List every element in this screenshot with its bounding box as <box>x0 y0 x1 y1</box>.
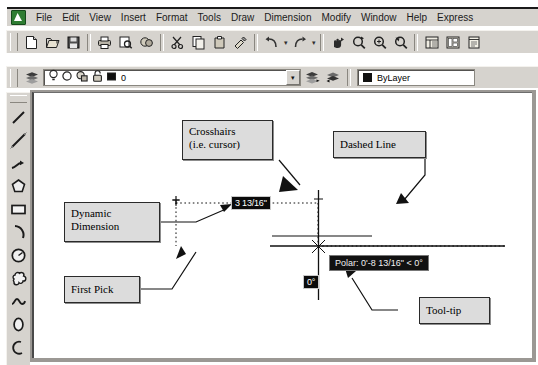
menu-bar: File Edit View Insert Format Tools Draw … <box>6 8 538 26</box>
autocad-app-icon[interactable] <box>11 10 26 25</box>
polar-tracking-tooltip: Polar: 0'-8 13/16" < 0° <box>329 255 429 271</box>
menu-item-draw[interactable]: Draw <box>226 10 259 26</box>
designcenter-icon[interactable] <box>443 33 462 52</box>
tool-palettes-icon[interactable] <box>464 33 483 52</box>
annotation-tool-tip-label: Tool-tip <box>426 304 461 317</box>
annotation-dynamic-dimension: Dynamic Dimension <box>64 202 160 242</box>
redo-dropdown-arrow[interactable]: ▾ <box>310 33 317 52</box>
annotation-first-pick-label: First Pick <box>71 283 113 296</box>
layer-dropdown[interactable]: 0 ▾ <box>43 69 301 86</box>
plot-icon[interactable] <box>95 33 114 52</box>
menu-item-tools[interactable]: Tools <box>193 10 226 26</box>
color-value: ByLayer <box>377 73 410 83</box>
save-icon[interactable] <box>64 33 83 52</box>
toolbar-separator <box>87 34 91 51</box>
construction-line-icon[interactable] <box>8 129 29 152</box>
toolbar-separator <box>347 69 351 86</box>
menu-item-window[interactable]: Window <box>356 10 402 26</box>
ellipse-icon[interactable] <box>8 313 29 336</box>
circle-icon[interactable] <box>8 244 29 267</box>
annotation-crosshairs-line1: Crosshairs <box>189 125 266 138</box>
annotation-first-pick: First Pick <box>64 276 140 303</box>
sun-icon[interactable] <box>61 69 73 87</box>
cut-icon[interactable] <box>168 33 187 52</box>
pan-realtime-icon[interactable] <box>328 33 347 52</box>
toolbar-grip[interactable] <box>10 95 27 103</box>
menu-item-edit[interactable]: Edit <box>57 10 84 26</box>
layer-properties-manager-icon[interactable] <box>22 68 41 87</box>
lightbulb-icon[interactable] <box>48 69 59 87</box>
ellipse-arc-icon[interactable] <box>8 336 29 359</box>
zoom-previous-icon[interactable] <box>391 33 410 52</box>
annotation-crosshairs: Crosshairs (i.e. cursor) <box>182 120 273 160</box>
toolbar-separator <box>254 34 258 51</box>
arc-icon[interactable] <box>8 221 29 244</box>
undo-dropdown-arrow[interactable]: ▾ <box>282 33 289 52</box>
polyline-icon[interactable] <box>8 152 29 175</box>
open-icon[interactable] <box>43 33 62 52</box>
current-layer-name: 0 <box>121 73 126 83</box>
polygon-icon[interactable] <box>8 175 29 198</box>
menu-item-file[interactable]: File <box>31 10 57 26</box>
standard-toolbar: ▾ ▾ <box>6 30 538 53</box>
toolbar-grip[interactable] <box>10 69 18 87</box>
annotation-dashed-line: Dashed Line <box>333 131 426 158</box>
new-icon[interactable] <box>22 33 41 52</box>
annotation-tool-tip: Tool-tip <box>419 297 490 324</box>
publish-icon[interactable] <box>137 33 156 52</box>
layer-state-icons <box>44 69 117 87</box>
autocad-window: File Edit View Insert Format Tools Draw … <box>0 0 538 365</box>
dynamic-angle-input[interactable]: 0° <box>303 275 319 289</box>
layer-previous-icon[interactable] <box>324 68 343 87</box>
menu-item-modify[interactable]: Modify <box>317 10 356 26</box>
chevron-down-icon[interactable]: ▾ <box>286 70 300 85</box>
annotation-dashed-line-label: Dashed Line <box>340 138 396 151</box>
revision-cloud-icon[interactable] <box>8 267 29 290</box>
menu-item-help[interactable]: Help <box>402 10 433 26</box>
redo-icon[interactable] <box>290 33 309 52</box>
plot-preview-icon[interactable] <box>116 33 135 52</box>
properties-icon[interactable] <box>422 33 441 52</box>
lock-icon[interactable] <box>91 69 104 87</box>
toolbar-separator <box>414 34 418 51</box>
menu-item-insert[interactable]: Insert <box>116 10 151 26</box>
menu-item-format[interactable]: Format <box>151 10 193 26</box>
draw-toolbar <box>6 92 30 365</box>
spline-icon[interactable] <box>8 290 29 313</box>
menu-item-dimension[interactable]: Dimension <box>259 10 316 26</box>
copy-icon[interactable] <box>189 33 208 52</box>
menu-item-express[interactable]: Express <box>432 10 478 26</box>
toolbar-separator <box>160 34 164 51</box>
color-swatch-icon[interactable] <box>106 69 117 87</box>
paste-icon[interactable] <box>210 33 229 52</box>
zoom-window-icon[interactable] <box>370 33 389 52</box>
toolbar-grip[interactable] <box>10 33 18 51</box>
line-icon[interactable] <box>8 106 29 129</box>
toolbar-separator <box>320 34 324 51</box>
annotation-crosshairs-line2: (i.e. cursor) <box>189 138 266 151</box>
make-objects-layer-current-icon[interactable] <box>303 68 322 87</box>
annotation-dynamic-dimension-line1: Dynamic <box>71 207 153 220</box>
zoom-realtime-icon[interactable] <box>349 33 368 52</box>
color-dropdown[interactable]: ByLayer <box>357 69 475 86</box>
layer-properties-toolbar: 0 ▾ ByLayer <box>6 66 538 88</box>
rectangle-icon[interactable] <box>8 198 29 221</box>
dynamic-dimension-input[interactable]: 3 13/16" <box>231 196 271 210</box>
freeze-viewport-icon[interactable] <box>75 69 89 87</box>
color-swatch <box>363 73 372 82</box>
annotation-dynamic-dimension-line2: Dimension <box>71 220 153 233</box>
menu-item-view[interactable]: View <box>84 10 116 26</box>
match-properties-icon[interactable] <box>231 33 250 52</box>
undo-icon[interactable] <box>262 33 281 52</box>
